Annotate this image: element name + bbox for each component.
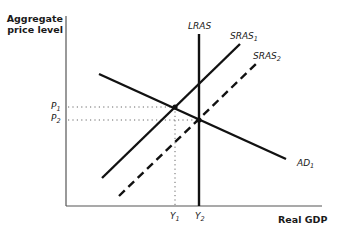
equilibrium-point-e1 (172, 104, 177, 109)
ad1-label: AD1 (297, 158, 314, 170)
ad1-label-text: AD (297, 158, 310, 168)
ad1-curve (99, 74, 286, 159)
p1-tick-label: P1 (51, 101, 61, 113)
lras-label: LRAS (188, 21, 211, 31)
sras2-label-text: SRAS (253, 51, 277, 61)
p2-tick-label: P2 (51, 113, 61, 125)
x-axis-title: Real GDP (278, 214, 327, 225)
lras-label-text: LRAS (188, 21, 211, 31)
ad1-label-subscript: 1 (310, 162, 314, 170)
sras1-curve (102, 44, 240, 178)
y-axis-title-line1: Aggregate (7, 13, 63, 24)
y2-tick-label: Y2 (195, 211, 205, 223)
sras1-label-text: SRAS (230, 31, 254, 41)
y1-tick-label: Y1 (170, 211, 180, 223)
y2-subscript: 2 (201, 215, 205, 223)
sras2-label: SRAS2 (253, 51, 281, 63)
p1-subscript: 1 (56, 105, 60, 113)
y-axis-title-line2: price level (7, 24, 63, 35)
p2-subscript: 2 (56, 117, 60, 125)
sras1-label: SRAS1 (230, 31, 258, 43)
sras2-label-subscript: 2 (277, 55, 281, 63)
sras2-curve (119, 64, 256, 196)
equilibrium-point-e2 (196, 117, 201, 122)
y1-subscript: 1 (176, 215, 180, 223)
y-axis-title: Aggregate price level (7, 13, 63, 35)
ad-as-diagram: Aggregate price level Real GDP LRAS SRAS… (0, 0, 341, 232)
sras1-label-subscript: 1 (254, 35, 258, 43)
